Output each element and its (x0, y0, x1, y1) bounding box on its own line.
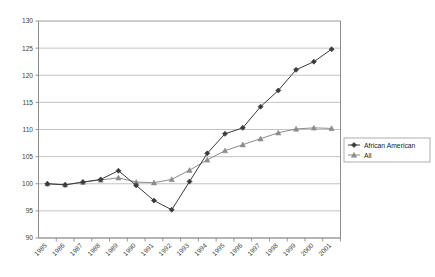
x-axis-tick-label: 1990 (122, 242, 138, 258)
y-axis-tick-label: 105 (22, 153, 33, 160)
y-axis-tick-label: 125 (22, 45, 33, 52)
x-axis-tick-label: 1997 (246, 242, 262, 258)
x-axis-tick-label: 1998 (264, 242, 280, 258)
data-point-all-1993 (187, 168, 192, 173)
y-axis-tick-label: 115 (22, 99, 33, 106)
legend-label-african-american: African American (364, 142, 416, 149)
y-axis-tick-label: 90 (26, 234, 34, 241)
x-axis-tick-label: 1992 (157, 242, 173, 258)
legend-label-all: All (364, 152, 372, 159)
x-axis-tick-label: 1989 (104, 242, 120, 258)
y-axis-tick-label: 100 (22, 180, 33, 187)
x-axis-tick-label: 1999 (281, 242, 297, 258)
y-axis-tick-label: 110 (22, 126, 33, 133)
x-axis-tick-label: 1996 (228, 242, 244, 258)
y-axis-tick-label: 95 (26, 207, 34, 214)
x-axis-tick-label: 1991 (139, 242, 155, 258)
y-axis-tick-label: 130 (22, 17, 33, 24)
x-axis-tick-label: 1993 (175, 242, 191, 258)
chart-canvas: 9095100105110115120125130198519861987198… (0, 0, 435, 277)
x-axis-tick-label: 1987 (68, 242, 84, 258)
x-axis-tick-label: 2001 (317, 242, 333, 258)
x-axis-tick-label: 2000 (299, 242, 315, 258)
x-axis-tick-label: 1994 (193, 242, 209, 258)
x-axis-tick-label: 1986 (51, 242, 67, 258)
y-axis-tick-label: 120 (22, 72, 33, 79)
data-point-all-1994 (205, 157, 210, 162)
x-axis-tick-label: 1985 (33, 242, 49, 258)
x-axis-tick-label: 1988 (86, 242, 102, 258)
line-chart: 9095100105110115120125130198519861987198… (0, 0, 435, 277)
data-point-all-1992 (169, 177, 174, 182)
data-point-african-american-1993 (187, 179, 192, 184)
data-point-african-american-1992 (169, 207, 174, 212)
x-axis-tick-label: 1995 (210, 242, 226, 258)
